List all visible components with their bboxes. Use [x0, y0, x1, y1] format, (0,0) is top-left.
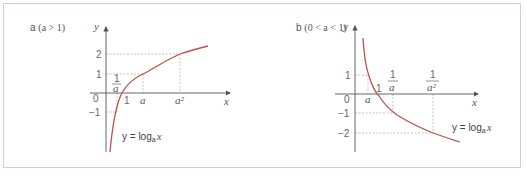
panel-a-origin: 0	[93, 93, 99, 104]
panel-b-frac1-den: a	[389, 81, 395, 93]
panel-a-frac-den: a	[113, 82, 119, 94]
panel-b-ytick-1: 1	[345, 70, 351, 81]
panel-b-ytick-neg1: −1	[338, 108, 350, 119]
panel-b-xtick-a: a	[365, 93, 371, 105]
panel-a-xtick-1: 1	[124, 95, 130, 106]
panel-a-x-label: x	[223, 95, 229, 107]
graphs-svg: y x 0 2 1 −1 1 a a² 1 a y = logax y x 0 …	[0, 0, 526, 175]
panel-a-ytick-neg1: −1	[89, 107, 101, 118]
panel-b-origin: 0	[344, 94, 350, 105]
panel-a-xtick-a2: a²	[175, 94, 185, 106]
panel-b-ytick-neg2: −2	[338, 128, 350, 139]
panel-a-xtick-a: a	[140, 94, 146, 106]
panel-b-equation: y = logax	[452, 121, 492, 134]
panel-a-ytick-1: 1	[96, 69, 102, 80]
panel-a-y-label: y	[93, 20, 99, 32]
panel-b-xtick-1: 1	[376, 83, 382, 94]
panel-b-y-label: y	[342, 20, 348, 32]
panel-a-ytick-2: 2	[96, 49, 102, 60]
panel-b-x-label: x	[471, 96, 477, 108]
panel-b-frac2-den: a²	[427, 81, 437, 93]
panel-b-graph: y x 0 1 −1 −2 a 1 1 a 1 a² y = logax	[335, 20, 492, 152]
panel-a-graph: y x 0 2 1 −1 1 a a² 1 a y = logax	[89, 20, 230, 152]
panel-b-frac2-num: 1	[430, 69, 436, 80]
panel-b-frac1-num: 1	[390, 69, 396, 80]
panel-a-equation: y = logax	[122, 130, 162, 143]
